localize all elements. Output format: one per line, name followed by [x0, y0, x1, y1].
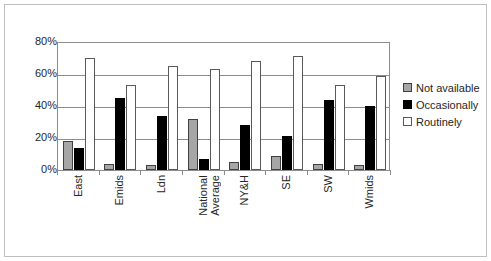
bar-group — [141, 43, 183, 170]
bar — [251, 61, 261, 170]
legend-item-label: Not available — [416, 82, 480, 94]
bar — [335, 85, 345, 170]
bar — [74, 148, 84, 170]
legend-item: Occasionally — [403, 97, 487, 112]
bar-group — [225, 43, 267, 170]
bar — [168, 66, 178, 170]
bar — [157, 116, 167, 170]
bar — [229, 162, 239, 170]
legend-item: Not available — [403, 80, 487, 95]
bar-group — [349, 43, 391, 170]
x-axis-category-label: National Average — [197, 175, 221, 216]
bar-group — [183, 43, 225, 170]
bar — [376, 76, 386, 170]
legend-swatch-icon — [403, 117, 412, 126]
x-axis-tick-mark — [224, 170, 225, 175]
bar-group — [266, 43, 308, 170]
bar — [63, 141, 73, 170]
y-axis-tick-label: 0% — [9, 164, 57, 175]
bar — [188, 119, 198, 170]
bar — [210, 69, 220, 170]
bar-group — [308, 43, 350, 170]
y-axis-tick-label: 20% — [9, 132, 57, 143]
legend-item-label: Occasionally — [416, 99, 478, 111]
legend-swatch-icon — [403, 100, 412, 109]
y-axis-tick-label: 40% — [9, 100, 57, 111]
x-axis-tick-mark — [140, 170, 141, 175]
x-axis-category-label: SW — [322, 175, 334, 193]
bar — [85, 58, 95, 170]
legend-swatch-icon — [403, 83, 412, 92]
x-axis-tick-mark — [182, 170, 183, 175]
y-axis-tick-label: 60% — [9, 68, 57, 79]
bar — [365, 106, 375, 170]
x-axis-tick-mark — [307, 170, 308, 175]
plot-area — [57, 42, 390, 170]
x-axis-tick-mark — [57, 170, 58, 175]
x-axis-category-label: East — [72, 175, 84, 197]
x-axis-tick-mark — [348, 170, 349, 175]
bar — [126, 85, 136, 170]
legend-item: Routinely — [403, 114, 487, 129]
bar — [271, 156, 281, 170]
x-axis-category-label: SE — [280, 175, 292, 190]
bar — [199, 159, 209, 170]
chart-legend: Not availableOccasionallyRoutinely — [403, 80, 487, 131]
x-axis-category-label: NY&H — [238, 175, 250, 206]
x-axis-category-label: Ldn — [155, 175, 167, 193]
legend-item-label: Routinely — [416, 116, 462, 128]
bar — [324, 100, 334, 170]
bar-group — [100, 43, 142, 170]
y-axis-tick-label: 80% — [9, 36, 57, 47]
bar — [240, 125, 250, 170]
bar-chart-figure: 0%20%40%60%80% Not availableOccasionally… — [0, 0, 491, 261]
x-axis-category-label: Emids — [113, 175, 125, 206]
bar — [282, 136, 292, 170]
x-axis-category-label: Wmids — [363, 175, 375, 209]
y-axis: 0%20%40%60%80% — [0, 42, 57, 171]
bar — [293, 56, 303, 170]
x-axis-tick-mark — [265, 170, 266, 175]
bar-group — [58, 43, 100, 170]
x-axis-tick-mark — [99, 170, 100, 175]
x-axis-tick-mark — [390, 170, 391, 175]
bar — [115, 98, 125, 170]
